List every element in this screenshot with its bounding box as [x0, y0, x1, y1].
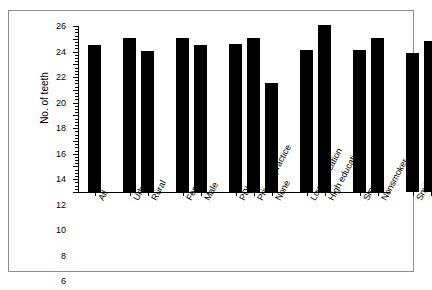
y-tick-minor [75, 189, 79, 190]
y-tick-minor [75, 125, 79, 126]
y-tick-minor [75, 186, 79, 187]
y-tick-label: 12 [56, 200, 66, 209]
x-tick [183, 192, 184, 196]
x-tick [272, 192, 273, 196]
y-tick-minor [75, 157, 79, 158]
bar [300, 50, 313, 192]
y-tick-minor [75, 96, 79, 97]
y-tick-major: 14 [73, 103, 79, 104]
x-tick [431, 192, 432, 196]
y-tick-minor [75, 163, 79, 164]
y-tick-minor [75, 32, 79, 33]
x-tick [95, 192, 96, 196]
y-tick-label: 18 [56, 124, 66, 133]
y-tick-minor [75, 74, 79, 75]
y-tick-minor [75, 55, 79, 56]
y-tick-major: 18 [73, 77, 79, 78]
x-tick [236, 192, 237, 196]
y-tick-minor [75, 36, 79, 37]
y-tick-minor [75, 61, 79, 62]
y-tick-minor [75, 122, 79, 123]
x-tick [307, 192, 308, 196]
y-tick-minor [75, 93, 79, 94]
bar [88, 45, 101, 192]
y-tick-minor [75, 83, 79, 84]
bar [406, 53, 419, 192]
y-tick-minor [75, 106, 79, 107]
y-tick-label: 22 [56, 73, 66, 82]
y-tick-major: 16 [73, 90, 79, 91]
y-tick-label: 16 [56, 149, 66, 158]
y-tick-label: 26 [56, 22, 66, 31]
y-tick-major: 20 [73, 64, 79, 65]
y-tick-major: 22 [73, 52, 79, 53]
chart-figure: No. of teeth 02468101214161820222426 All… [0, 0, 432, 290]
y-tick-minor [75, 119, 79, 120]
y-tick-minor [75, 170, 79, 171]
y-tick-minor [75, 135, 79, 136]
bar [371, 38, 384, 193]
y-tick-minor [75, 112, 79, 113]
bar [353, 50, 366, 192]
x-tick [130, 192, 131, 196]
y-tick-minor [75, 99, 79, 100]
x-axis-line [78, 192, 390, 193]
y-tick-major: 26 [73, 26, 79, 27]
x-tick-label: All [97, 189, 110, 202]
y-tick-major: 24 [73, 39, 79, 40]
y-tick-label: 6 [61, 277, 66, 286]
x-tick [413, 192, 414, 196]
y-tick-minor [75, 58, 79, 59]
y-tick-minor [75, 48, 79, 49]
y-tick-label: 14 [56, 175, 66, 184]
bar [229, 44, 242, 192]
y-tick-minor [75, 68, 79, 69]
y-tick-label: 24 [56, 47, 66, 56]
y-tick-minor [75, 160, 79, 161]
y-tick-minor [75, 147, 79, 148]
x-tick [201, 192, 202, 196]
y-tick-minor [75, 109, 79, 110]
x-tick [360, 192, 361, 196]
y-tick-label: 20 [56, 98, 66, 107]
y-tick-minor [75, 45, 79, 46]
bar [123, 38, 136, 192]
y-tick-minor [75, 138, 79, 139]
bar [141, 51, 154, 192]
x-tick [148, 192, 149, 196]
y-tick-minor [75, 176, 79, 177]
x-tick [254, 192, 255, 196]
bar [176, 38, 189, 193]
y-tick-minor [75, 42, 79, 43]
x-tick [325, 192, 326, 196]
y-tick-major: 12 [73, 115, 79, 116]
bar [247, 38, 260, 193]
y-tick-minor [75, 151, 79, 152]
y-tick-major: 10 [73, 128, 79, 129]
bar [194, 45, 207, 192]
y-tick-major: 0 [73, 192, 79, 193]
y-axis-title: No. of teeth [39, 72, 50, 124]
y-tick-label: 8 [61, 251, 66, 260]
y-tick-minor [75, 173, 79, 174]
y-tick-minor [75, 131, 79, 132]
y-tick-minor [75, 144, 79, 145]
y-tick-major: 6 [73, 154, 79, 155]
x-axis-labels: AllUrbanRuralFemaleMalePDHSPrivate pract… [78, 198, 408, 278]
y-tick-minor [75, 29, 79, 30]
y-tick-label: 10 [56, 226, 66, 235]
y-tick-minor [75, 71, 79, 72]
y-tick-minor [75, 87, 79, 88]
x-tick [378, 192, 379, 196]
y-tick-minor [75, 80, 79, 81]
y-tick-major: 8 [73, 141, 79, 142]
y-tick-major: 2 [73, 179, 79, 180]
y-tick-major: 4 [73, 166, 79, 167]
y-tick-minor [75, 182, 79, 183]
